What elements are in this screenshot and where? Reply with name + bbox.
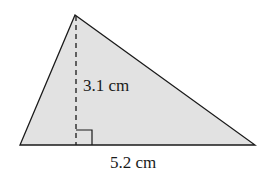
triangle [20, 15, 255, 145]
triangle-diagram: 3.1 cm 5.2 cm [0, 0, 259, 174]
height-label: 3.1 cm [83, 76, 129, 95]
base-label: 5.2 cm [110, 153, 156, 172]
